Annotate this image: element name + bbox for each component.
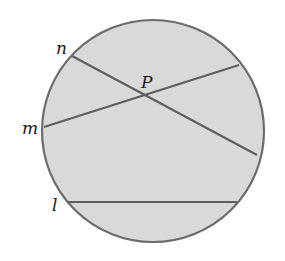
label-m: m (22, 118, 38, 138)
label-n: n (56, 38, 67, 58)
label-P: P (140, 72, 153, 92)
circle-diagram: n m l P (0, 0, 285, 261)
circle (42, 20, 264, 242)
label-l: l (52, 195, 57, 215)
